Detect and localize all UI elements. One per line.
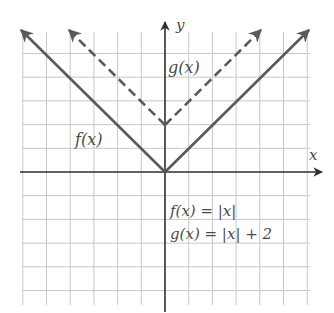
x-axis-label: x bbox=[309, 146, 318, 164]
f-equation: f(x) = |x| bbox=[169, 202, 236, 220]
f-curve-label: f(x) bbox=[74, 130, 102, 149]
g-curve-label: g(x) bbox=[168, 58, 200, 77]
y-axis-label: y bbox=[175, 16, 185, 34]
absolute-value-graph: y x g(x) f(x) f(x) = |x| g(x) = |x| + 2 bbox=[0, 0, 334, 313]
g-equation: g(x) = |x| + 2 bbox=[170, 225, 272, 243]
